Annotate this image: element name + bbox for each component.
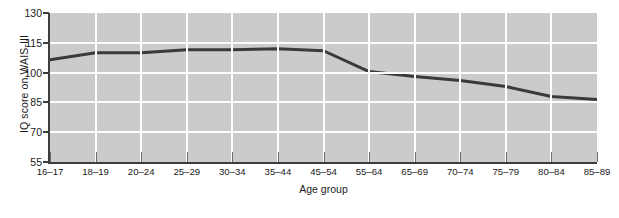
x-axis-title: Age group (50, 183, 597, 195)
x-axis-tick-mark (369, 152, 370, 162)
plot-area (50, 13, 597, 162)
x-axis-tick-label: 16–17 (37, 166, 64, 177)
gridline-vertical (459, 13, 461, 162)
x-axis-tick-label: 85–89 (584, 166, 611, 177)
y-axis-tick-mark (43, 161, 49, 163)
x-axis-tick-label: 30–34 (219, 166, 246, 177)
iq-by-age-line-chart: IQ score on WAIS-III 557085100115130 Age… (0, 0, 619, 218)
x-axis-tick-label: 20–24 (128, 166, 155, 177)
y-axis-spine (48, 13, 50, 162)
x-axis-tick-mark (96, 152, 97, 162)
gridline-vertical (140, 13, 142, 162)
y-axis-tick-mark (43, 131, 49, 133)
x-axis-tick-mark (141, 152, 142, 162)
y-axis-tick-label: 70 (0, 126, 42, 138)
y-axis-tick-mark (43, 101, 49, 103)
x-axis-spine (48, 162, 597, 164)
x-axis-tick-label: 18–19 (82, 166, 109, 177)
x-axis-tick-label: 80–84 (538, 166, 565, 177)
x-axis-tick-label: 45–54 (310, 166, 337, 177)
gridline-vertical (323, 13, 325, 162)
x-axis-tick-mark (415, 152, 416, 162)
gridline-vertical (505, 13, 507, 162)
gridline-vertical (414, 13, 416, 162)
x-axis-tick-label: 35–44 (265, 166, 292, 177)
x-axis-tick-label: 65–69 (401, 166, 428, 177)
x-axis-tick-mark (278, 152, 279, 162)
gridline-vertical (186, 13, 188, 162)
x-axis-tick-mark (232, 152, 233, 162)
x-axis-tick-label: 25–29 (173, 166, 200, 177)
gridline-vertical (231, 13, 233, 162)
y-axis-tick-mark (43, 42, 49, 44)
x-axis-tick-label: 55–64 (356, 166, 383, 177)
x-axis-tick-mark (506, 152, 507, 162)
y-axis-tick-labels: 557085100115130 (0, 0, 46, 218)
x-axis-tick-mark (597, 152, 598, 162)
gridline-vertical (550, 13, 552, 162)
x-axis-tick-mark (460, 152, 461, 162)
y-axis-tick-label: 130 (0, 7, 42, 19)
x-axis-tick-label: 75–79 (492, 166, 519, 177)
y-axis-tick-mark (43, 12, 49, 14)
y-axis-tick-label: 100 (0, 67, 42, 79)
y-axis-tick-label: 115 (0, 37, 42, 49)
x-axis-tick-label: 70–74 (447, 166, 474, 177)
x-axis-tick-mark (187, 152, 188, 162)
y-axis-tick-mark (43, 72, 49, 74)
gridline-vertical (368, 13, 370, 162)
x-axis-tick-mark (324, 152, 325, 162)
x-axis-tick-mark (50, 152, 51, 162)
y-axis-tick-label: 85 (0, 96, 42, 108)
x-axis-tick-mark (551, 152, 552, 162)
gridline-vertical (95, 13, 97, 162)
gridline-vertical (277, 13, 279, 162)
